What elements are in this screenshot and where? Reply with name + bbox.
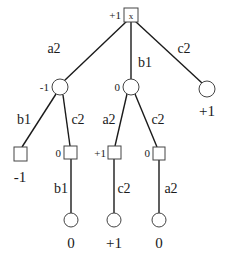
mid-circle-node xyxy=(123,79,139,95)
edge-label-sq4-a2: a2 xyxy=(164,181,177,196)
edge-label-root-a2: a2 xyxy=(47,41,60,56)
leaf-node-2 xyxy=(107,213,121,227)
edge-label-left-c2: c2 xyxy=(71,112,84,127)
edge-mid-a2 xyxy=(115,94,127,146)
square-2-value: 0 xyxy=(56,147,62,159)
square-node-2 xyxy=(64,146,77,159)
right-circle-value: +1 xyxy=(199,103,215,119)
edge-label-root-c2: c2 xyxy=(177,41,190,56)
leaf-node-1 xyxy=(64,213,78,227)
square-3-value: +1 xyxy=(94,147,106,159)
leaf-node-3 xyxy=(152,213,166,227)
square-node-3 xyxy=(108,146,121,159)
square-node-1 xyxy=(14,147,27,161)
edge-label-root-b1: b1 xyxy=(138,55,152,70)
edge-label-mid-c2: c2 xyxy=(151,112,164,127)
square-1-value: -1 xyxy=(14,169,27,185)
mid-circle-value: 0 xyxy=(115,81,121,93)
leaf-3-value: 0 xyxy=(155,235,163,251)
edge-label-left-b1: b1 xyxy=(17,112,31,127)
right-circle-node xyxy=(199,81,215,97)
edge-root-a2 xyxy=(64,21,127,81)
edge-left-c2 xyxy=(63,95,70,146)
left-circle-node xyxy=(52,79,68,95)
game-tree-diagram: x +1 -1 0 +1 -1 0 +1 0 0 +1 0 a2 b1 c2 b… xyxy=(0,0,228,266)
left-circle-value: -1 xyxy=(40,81,49,93)
edge-label-mid-a2: a2 xyxy=(102,112,115,127)
leaf-2-value: +1 xyxy=(106,235,122,251)
edge-root-c2 xyxy=(135,21,202,83)
edge-label-sq2-b1: b1 xyxy=(54,181,68,196)
root-value: +1 xyxy=(109,9,121,21)
square-4-value: 0 xyxy=(145,147,151,159)
leaf-1-value: 0 xyxy=(67,235,75,251)
root-x-icon: x xyxy=(129,11,134,21)
edge-label-sq3-c2: c2 xyxy=(117,181,130,196)
square-node-4 xyxy=(153,147,165,160)
